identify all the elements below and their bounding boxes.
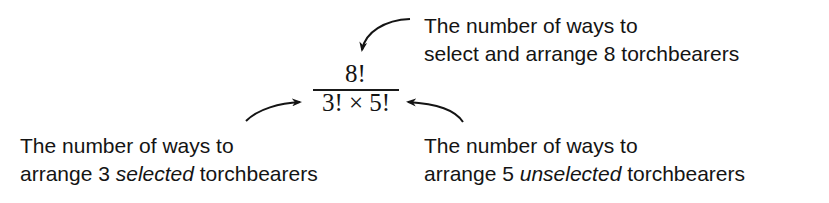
annotation-bottom-left: The number of ways to arrange 3 selected… (20, 132, 318, 188)
text-segment: torchbearers (621, 162, 745, 185)
annotation-bottom-right-line2: arrange 5 unselected torchbearers (424, 160, 745, 188)
text-segment: torchbearers (194, 162, 318, 185)
text-segment: arrange 3 (20, 162, 116, 185)
annotation-bottom-left-line1: The number of ways to (20, 132, 318, 160)
arrow-to-numerator-icon (362, 19, 410, 50)
annotation-top-right: The number of ways to select and arrange… (424, 12, 739, 68)
emphasis-unselected: unselected (520, 162, 622, 185)
text-segment: arrange 5 (424, 162, 520, 185)
annotation-bottom-right: The number of ways to arrange 5 unselect… (424, 132, 745, 188)
annotation-top-right-line1: The number of ways to (424, 12, 739, 40)
formula-denominator: 3! × 5! (305, 89, 407, 117)
arrow-to-5-factorial-icon (408, 102, 463, 122)
annotation-bottom-left-line2: arrange 3 selected torchbearers (20, 160, 318, 188)
arrow-to-3-factorial-icon (246, 102, 300, 121)
annotation-bottom-right-line1: The number of ways to (424, 132, 745, 160)
emphasis-selected: selected (116, 162, 194, 185)
annotation-top-right-line2: select and arrange 8 torchbearers (424, 40, 739, 68)
formula-numerator: 8! (313, 60, 398, 88)
